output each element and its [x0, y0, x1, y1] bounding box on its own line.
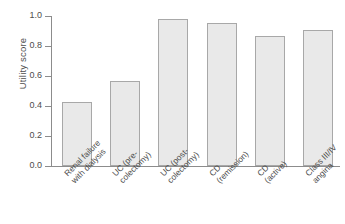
y-tick-label: 0.2 [18, 131, 42, 140]
y-tick-label: 0.0 [18, 161, 42, 170]
bar-chart: Utility score 1.00.80.60.40.20.0 Renal f… [0, 0, 345, 224]
y-tick-label: 0.4 [18, 101, 42, 110]
y-tick-label: 1.0 [18, 11, 42, 20]
y-tick-label: 0.6 [18, 71, 42, 80]
y-tick-mark [45, 166, 51, 167]
y-tick-label: 0.8 [18, 41, 42, 50]
